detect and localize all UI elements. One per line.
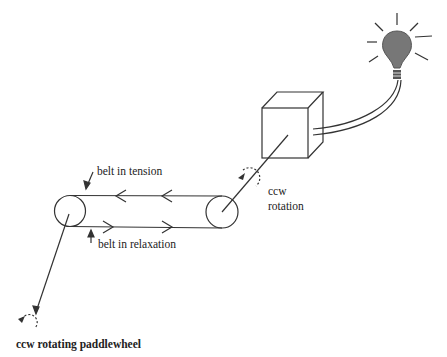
diagram-canvas: belt in tension belt in relaxation ccw r…	[0, 0, 447, 357]
belt-bottom	[70, 227, 222, 229]
label-belt-in-relaxation: belt in relaxation	[98, 238, 176, 251]
generator-box-top	[262, 92, 323, 108]
paddlewheel-shaft	[36, 214, 69, 312]
generator-box-front	[262, 108, 308, 158]
wire-2	[313, 80, 401, 135]
belt-top	[70, 196, 222, 197]
light-bulb-icon	[383, 31, 412, 79]
label-belt-in-tension: belt in tension	[97, 165, 162, 178]
label-paddlewheel: ccw rotating paddlewheel	[16, 338, 141, 350]
generator-box-side	[308, 92, 323, 158]
left-pulley	[55, 196, 86, 227]
diagram-drawing	[0, 0, 447, 357]
label-rotation: rotation	[268, 200, 304, 213]
wire-1	[313, 80, 398, 129]
label-ccw: ccw	[268, 185, 287, 198]
